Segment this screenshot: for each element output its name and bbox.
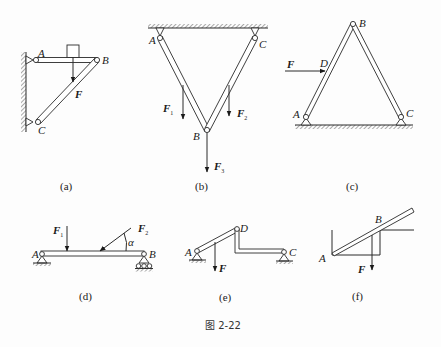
support-c-icon (26, 118, 33, 126)
force-f1-label: F1 (52, 224, 63, 238)
force-f1-label: F1 (162, 102, 173, 116)
support-a-icon (26, 56, 33, 64)
roller-2 (142, 264, 147, 269)
pin-a (40, 252, 45, 257)
panel-f-caption: (f) (352, 290, 363, 303)
ground-a-hatch (189, 260, 206, 263)
bar-bc (36, 58, 99, 124)
panel-c: A B C D F (c) (285, 17, 414, 193)
panel-d: A B F1 F2 α (d) (31, 222, 156, 303)
angle-arc (124, 233, 127, 251)
point-c-label: C (259, 38, 267, 50)
ground-b-hatch (135, 269, 153, 272)
pin-b (142, 252, 147, 257)
force-f-label: F (218, 262, 227, 274)
panel-f: A B F (f) (318, 208, 414, 303)
bar-ad (196, 227, 239, 253)
point-b-label: B (375, 213, 382, 225)
panel-a-caption: (a) (60, 180, 73, 193)
point-d-label: D (319, 57, 328, 69)
force-f-label: F (357, 263, 366, 275)
point-b-label: B (102, 54, 109, 66)
ground-a-hatch (33, 263, 51, 266)
pin-a (303, 114, 308, 119)
point-a-label: A (184, 246, 192, 258)
wall-hatch (21, 52, 26, 132)
ground-c-hatch (276, 261, 293, 264)
inclined-bar (332, 208, 414, 256)
force-f3-label: F3 (213, 160, 224, 174)
support-a-icon (156, 28, 164, 36)
point-a-label: A (292, 108, 300, 120)
force-f-label: F (74, 88, 83, 100)
point-c-label: C (406, 107, 414, 119)
pin-c (398, 114, 403, 119)
point-d-label: D (239, 222, 248, 234)
figure-2-22: A B C F (a) A C B F1 F2 F3 (b) (0, 0, 441, 347)
bar-bc (205, 36, 257, 132)
point-a-label: A (37, 47, 45, 59)
panel-c-caption: (c) (346, 180, 359, 193)
pin-b (204, 127, 209, 132)
force-f2-label: F2 (236, 107, 247, 121)
point-a-label: A (31, 248, 39, 260)
point-a-label: A (148, 34, 156, 46)
block (67, 45, 79, 58)
panel-d-caption: (d) (79, 290, 92, 303)
point-b-label: B (359, 17, 366, 29)
support-c-icon (251, 28, 259, 36)
roller-1 (136, 264, 141, 269)
pin-a (195, 249, 200, 254)
point-b-label: B (193, 130, 200, 142)
panel-e-caption: (e) (219, 291, 232, 304)
panel-a: A B C F (a) (21, 45, 109, 193)
panel-b-caption: (b) (195, 180, 208, 193)
point-c-label: C (289, 246, 297, 258)
pin-a (157, 35, 162, 40)
point-c-label: C (38, 124, 46, 136)
panel-e: A D C F (e) (184, 222, 297, 304)
pin-c (252, 35, 257, 40)
support-b-icon (139, 256, 149, 263)
pin-b (350, 21, 355, 26)
support-c-icon (279, 254, 289, 261)
pin-d (235, 227, 240, 232)
point-b-label: B (149, 248, 156, 260)
ground-hatch (295, 125, 413, 129)
pin-b (94, 57, 99, 62)
beam-ab (41, 251, 144, 256)
bar-ab (36, 58, 97, 63)
statics-diagrams: A B C F (a) A C B F1 F2 F3 (b) (0, 0, 441, 347)
bar-bc (351, 23, 403, 118)
support-a-icon (192, 253, 202, 260)
force-f2-label: F2 (137, 222, 148, 236)
figure-caption: 图 2-22 (205, 320, 241, 331)
roller-3 (147, 264, 152, 269)
angle-alpha-label: α (128, 236, 134, 248)
panel-b: A C B F1 F2 F3 (b) (148, 24, 268, 193)
point-a-label: A (318, 252, 326, 264)
force-f-label: F (286, 58, 295, 70)
pin-c (282, 250, 287, 255)
ceiling-hatch (148, 24, 268, 28)
